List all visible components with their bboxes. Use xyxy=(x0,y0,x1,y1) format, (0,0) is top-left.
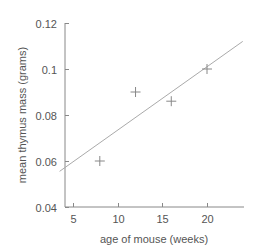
scatter-chart: 0.040.060.080.10.125101520 age of mouse … xyxy=(0,0,260,250)
y-tick-label: 0.04 xyxy=(36,202,57,214)
y-tick-label: 0.1 xyxy=(42,64,57,76)
y-tick-label: 0.06 xyxy=(36,156,57,168)
data-point-plus-marker xyxy=(166,96,176,106)
data-point-plus-marker xyxy=(131,87,141,97)
data-point-plus-marker xyxy=(95,156,105,166)
x-tick-label: 20 xyxy=(201,213,213,225)
y-tick-label: 0.08 xyxy=(36,110,57,122)
x-tick-label: 5 xyxy=(70,213,76,225)
trend-line xyxy=(60,41,243,171)
y-tick-label: 0.12 xyxy=(36,18,57,30)
x-tick-label: 10 xyxy=(112,213,124,225)
x-tick-label: 15 xyxy=(156,213,168,225)
x-axis-title: age of mouse (weeks) xyxy=(100,233,208,245)
data-point-plus-marker xyxy=(202,64,212,74)
plot-area: 0.040.060.080.10.125101520 xyxy=(36,18,244,226)
y-axis-title: mean thymus mass (grams) xyxy=(16,47,28,183)
